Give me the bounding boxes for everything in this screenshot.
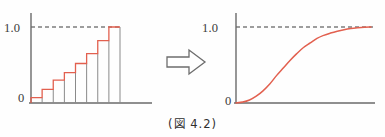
right-y-tick-label-one: 1.0 xyxy=(202,22,218,35)
right-y-tick-label-zero: 0 xyxy=(225,95,231,108)
left-y-tick-label-zero: 0 xyxy=(18,92,24,105)
figure-caption: (図 4.2) xyxy=(0,115,385,131)
limiting-cdf-curve-path xyxy=(236,27,371,103)
right-chart-svg xyxy=(195,0,385,115)
left-y-tick-label-one: 1.0 xyxy=(4,22,20,35)
right-chart-panel xyxy=(195,0,385,115)
figure-container: 1.0 0 1.0 0 (図 4.2) xyxy=(0,0,385,137)
figure-caption-text: (図 4.2) xyxy=(168,115,217,131)
